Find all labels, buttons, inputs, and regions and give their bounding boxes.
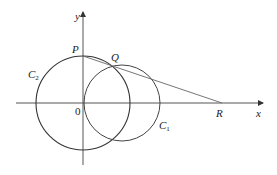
point-p-label: P bbox=[71, 43, 79, 55]
circle-c2-label: C2 bbox=[28, 68, 39, 82]
line-pqr bbox=[83, 56, 222, 103]
x-axis-label: x bbox=[255, 107, 261, 119]
geometry-diagram: y x 0 P Q R C2 C1 bbox=[0, 0, 277, 175]
circle-c1-label: C1 bbox=[159, 119, 170, 133]
point-q-label: Q bbox=[111, 51, 119, 63]
origin-label: 0 bbox=[75, 105, 81, 117]
point-r-label: R bbox=[215, 107, 223, 119]
y-axis-label: y bbox=[74, 10, 80, 22]
